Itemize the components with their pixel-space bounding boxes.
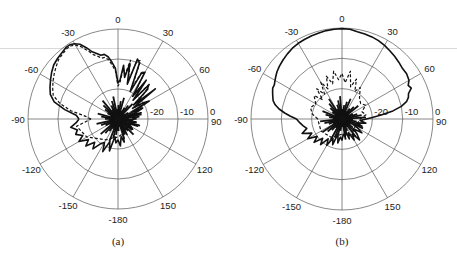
angle-label: -150 (58, 200, 77, 211)
radial-label: -10 (180, 106, 194, 117)
grid-spoke (342, 119, 388, 198)
angle-label: -60 (25, 64, 39, 75)
polar-plot-a: 03060120150-180-150-120-90-60-3090-20-10… (11, 14, 221, 225)
angle-label: -30 (285, 26, 299, 37)
angle-label: -120 (22, 164, 41, 175)
caption-b: (b) (336, 235, 349, 247)
angle-label: 120 (422, 164, 438, 175)
angle-label: 0 (339, 13, 344, 24)
angle-label: 30 (163, 27, 174, 38)
angle-label: -90 (11, 114, 25, 125)
angle-label: 60 (424, 63, 435, 74)
angle-label: 90 (211, 116, 222, 127)
angle-label: 30 (387, 26, 398, 37)
angle-label: 90 (436, 116, 447, 127)
angle-label: -90 (234, 114, 248, 125)
angle-label: -30 (61, 27, 75, 38)
grid-spoke (73, 119, 118, 197)
angle-label: -150 (282, 201, 301, 212)
series-solid (50, 44, 155, 152)
angle-label: 120 (197, 164, 213, 175)
caption-a: (a) (112, 235, 124, 247)
angle-label: -60 (248, 63, 262, 74)
angle-label: 150 (385, 201, 401, 212)
polar-plot-a: 03060120150-180-150-120-90-60-3090-20-10… (0, 0, 457, 260)
radial-label: 0 (435, 106, 440, 117)
angle-label: 60 (199, 64, 210, 75)
angle-label: -120 (245, 164, 264, 175)
angle-label: 150 (160, 200, 176, 211)
angle-label: -180 (108, 214, 127, 225)
angle-label: -180 (332, 215, 351, 226)
angle-label: 0 (115, 14, 120, 25)
polar-plot-b: 03060120150-180-150-120-90-60-3090-20-10… (234, 13, 446, 226)
radial-label: -10 (405, 106, 419, 117)
radial-label: 0 (210, 106, 215, 117)
figure: 03060120150-180-150-120-90-60-3090-20-10… (0, 0, 457, 260)
radial-label: -20 (150, 106, 164, 117)
